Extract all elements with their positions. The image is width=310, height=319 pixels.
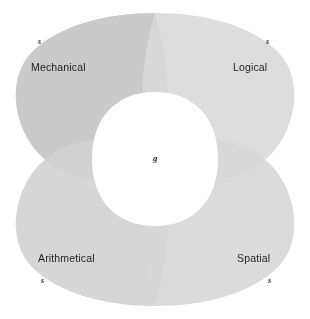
specific-factor-mark-logical: s [266, 38, 269, 46]
venn-diagram: Mechanical s Logical s Arithmetical s Sp… [0, 0, 310, 319]
specific-factor-mark-mechanical: s [38, 38, 41, 46]
specific-factor-mark-spatial: s [268, 277, 271, 285]
petal-label-spatial: Spatial [237, 253, 270, 264]
specific-factor-mark-arithmetical: s [41, 277, 44, 285]
petal-label-mechanical: Mechanical [31, 62, 86, 73]
general-factor-label: g [153, 154, 158, 163]
petal-label-logical: Logical [233, 62, 267, 73]
petal-label-arithmetical: Arithmetical [38, 253, 95, 264]
